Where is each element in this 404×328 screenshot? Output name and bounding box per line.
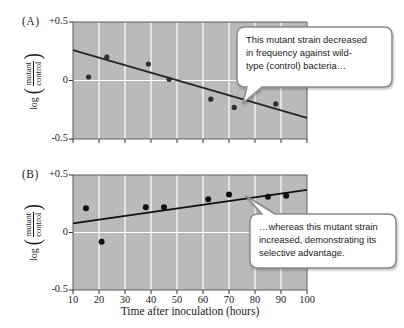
open-paren: ( (20, 239, 46, 245)
data-point (232, 105, 237, 110)
data-point (226, 192, 232, 198)
callout-a-line-2: in frequency against wild- (246, 46, 388, 59)
y-tick-label: +0.5 (36, 15, 68, 26)
data-point (99, 239, 105, 245)
fraction-numerator: mutant (24, 212, 34, 238)
y-tick-label: +0.5 (36, 168, 68, 179)
callout-b-line-3: selective advantage. (259, 246, 395, 259)
y-tick-label: -0.5 (36, 132, 68, 143)
y-axis-label-prefix: log (28, 247, 39, 261)
callout-b-line-1: …whereas this mutant strain (259, 220, 395, 233)
callout-a-text: This mutant strain decreased in frequenc… (246, 33, 388, 72)
close-paren: ) (20, 204, 46, 210)
y-tick-label: -0.5 (36, 283, 68, 294)
data-point (167, 77, 172, 82)
data-point (104, 55, 109, 60)
x-tick-label: 100 (292, 294, 322, 305)
data-point (273, 101, 278, 106)
close-paren: ) (20, 53, 46, 59)
callout-a-line-3: type (control) bacteria… (246, 59, 388, 72)
data-point (143, 204, 149, 210)
x-axis-label: Time after inoculation (hours) (70, 305, 310, 317)
fraction-numerator: mutant (24, 61, 34, 87)
data-point (161, 204, 167, 210)
y-tick-label: 0 (36, 74, 68, 85)
data-point (146, 62, 151, 67)
data-point (83, 205, 89, 211)
data-point (205, 196, 211, 202)
y-axis-label-prefix: log (28, 96, 39, 110)
open-paren: ( (20, 88, 46, 94)
data-point (283, 193, 289, 199)
figure: (A) (B) log(mutantcontrol) log(mutantcon… (0, 0, 404, 328)
data-point (86, 74, 91, 79)
y-tick-label: 0 (36, 226, 68, 237)
callout-a-line-1: This mutant strain decreased (246, 33, 388, 46)
callout-b-line-2: increased, demonstrating its (259, 233, 395, 246)
data-point (265, 194, 271, 200)
callout-b-text: …whereas this mutant strain increased, d… (259, 220, 395, 259)
data-point (208, 97, 213, 102)
